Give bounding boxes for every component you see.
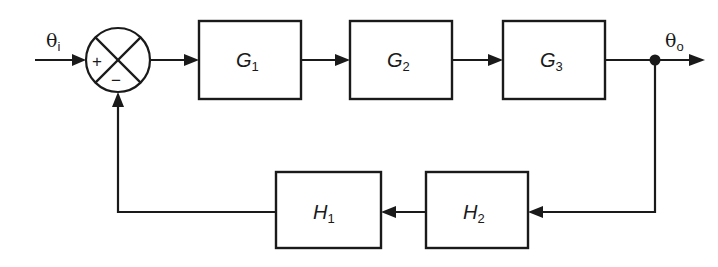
block-h2: H2 <box>426 172 528 248</box>
block-h1: H1 <box>276 172 381 248</box>
output-signal-label: θo <box>665 29 684 54</box>
feedback-line-to-junction <box>112 92 276 212</box>
input-signal-label: θi <box>46 29 60 54</box>
connector-g2-g3 <box>452 54 503 66</box>
connector-h2-h1 <box>381 206 426 218</box>
input-signal-line <box>35 54 86 66</box>
plus-sign: + <box>92 52 102 71</box>
connector-junction-g1 <box>150 54 199 66</box>
block-g1: G1 <box>199 21 301 99</box>
block-g3: G3 <box>503 21 605 99</box>
minus-sign: − <box>111 71 121 90</box>
block-g2: G2 <box>350 21 452 99</box>
connector-g1-g2 <box>301 54 350 66</box>
block-diagram: θi + − G1 G2 G3 <box>0 0 718 267</box>
